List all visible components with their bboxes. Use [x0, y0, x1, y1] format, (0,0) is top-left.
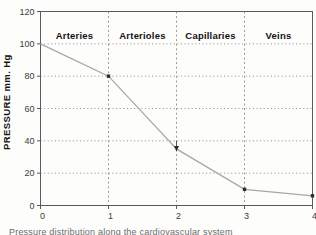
pressure-line-chart: 02040608010012001234ArteriesArteriolesCa…: [0, 0, 316, 235]
region-label: Veins: [266, 30, 292, 41]
region-label: Arterioles: [119, 30, 165, 41]
region-label: Capillaries: [185, 30, 235, 41]
y-tick-label: 120: [19, 7, 34, 17]
x-tick-label: 0: [40, 211, 45, 221]
data-point-marker: [107, 74, 110, 77]
region-label: Arteries: [56, 30, 94, 41]
x-tick-label: 1: [108, 211, 113, 221]
data-point-marker: [243, 188, 246, 191]
x-tick-label: 4: [312, 211, 316, 221]
figure: 02040608010012001234ArteriesArteriolesCa…: [0, 0, 316, 235]
y-tick-label: 100: [19, 39, 34, 49]
y-tick-label: 80: [24, 71, 34, 81]
y-axis-title: PRESSURE mm. Hg: [1, 54, 12, 150]
y-tick-label: 0: [29, 201, 34, 211]
x-tick-label: 3: [244, 211, 249, 221]
x-tick-label: 2: [176, 211, 181, 221]
y-tick-label: 40: [24, 136, 34, 146]
y-tick-label: 60: [24, 104, 34, 114]
y-tick-label: 20: [24, 168, 34, 178]
figure-caption: Pressure distribution along the cardiova…: [9, 227, 314, 235]
data-point-marker: [311, 194, 314, 197]
